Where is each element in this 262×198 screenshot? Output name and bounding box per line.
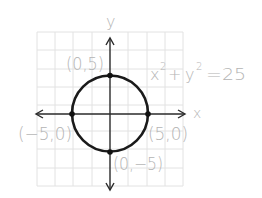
equation-x: x xyxy=(150,65,159,84)
x-axis-label: x xyxy=(193,105,201,121)
equation-plus: + xyxy=(168,65,181,84)
equation-y-exp: 2 xyxy=(196,61,202,72)
point-label-top: (0,5) xyxy=(66,54,104,74)
circle-graph: y x (0,5) (5,0) (0,−5) (−5,0) x 2 + y 2 … xyxy=(0,0,262,198)
equation-rhs: =25 xyxy=(206,65,246,84)
equation-x-exp: 2 xyxy=(160,61,166,72)
point-left xyxy=(69,111,75,117)
point-label-left: (−5,0) xyxy=(18,124,72,144)
y-axis-label: y xyxy=(106,12,115,31)
point-right xyxy=(145,111,151,117)
equation-y: y xyxy=(185,65,194,84)
equation-label: x 2 + y 2 =25 xyxy=(150,61,246,84)
point-label-right: (5,0) xyxy=(148,124,188,144)
point-top xyxy=(107,73,113,79)
point-label-bottom: (0,−5) xyxy=(113,154,163,174)
point-bottom xyxy=(107,149,113,155)
